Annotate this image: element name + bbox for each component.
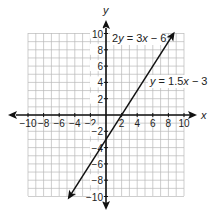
y-tick-label: −8	[92, 175, 104, 186]
x-tick-label: 2	[119, 118, 125, 129]
equation-label-2y-3x-6: 2y = 3x − 6	[112, 32, 166, 44]
coordinate-plane: xy −10−8−6−4−2246810−10−8−6−4−2246810 2y…	[0, 0, 212, 216]
x-tick-label: 10	[178, 118, 190, 129]
equation-label-y-1.5x-3: y = 1.5x − 3	[149, 75, 207, 87]
x-tick-label: −10	[20, 118, 37, 129]
y-tick-label: 8	[97, 45, 103, 56]
x-tick-label: 8	[166, 118, 172, 129]
y-tick-label: −10	[86, 192, 103, 203]
x-tick-label: −6	[53, 118, 65, 129]
x-tick-label: 6	[150, 118, 156, 129]
x-tick-label: 4	[134, 118, 140, 129]
x-axis-label: x	[200, 109, 207, 121]
y-tick-label: −2	[92, 126, 104, 137]
x-tick-label: −4	[69, 118, 81, 129]
y-tick-label: 10	[92, 29, 104, 40]
y-tick-label: 6	[97, 61, 103, 72]
y-tick-label: 4	[97, 77, 103, 88]
x-tick-label: −8	[38, 118, 50, 129]
y-tick-label: 2	[97, 94, 103, 105]
